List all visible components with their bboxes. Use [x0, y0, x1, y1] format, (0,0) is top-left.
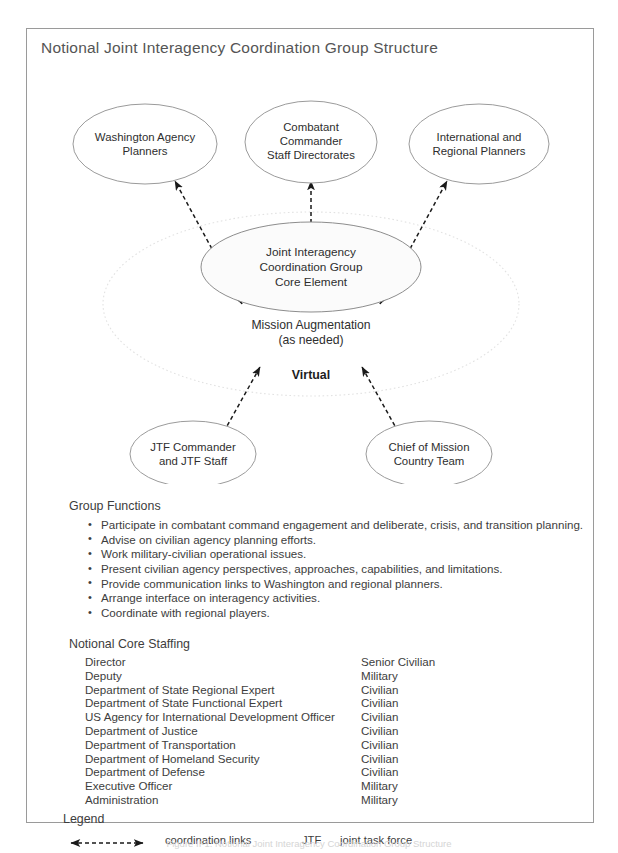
list-item: Participate in combatant command engagem…: [101, 518, 601, 531]
table-row: US Agency for International Development …: [85, 710, 435, 724]
list-item: Work military-civilian operational issue…: [101, 547, 601, 560]
staffing-role: Department of State Functional Expert: [85, 696, 361, 710]
staffing-category: Civilian: [361, 683, 435, 697]
staffing-category: Civilian: [361, 710, 435, 724]
table-row: Executive Officer Military: [85, 779, 435, 793]
table-row: Department of State Functional Expert Ci…: [85, 696, 435, 710]
table-row: Deputy Military: [85, 669, 435, 683]
staffing-role: Executive Officer: [85, 779, 361, 793]
list-item: Provide communication links to Washingto…: [101, 577, 601, 590]
figure-title: Notional Joint Interagency Coordination …: [41, 39, 438, 57]
node-chief-line-1: Chief of Mission: [388, 441, 469, 453]
node-washington-line-2: Planners: [123, 145, 168, 157]
table-row: Department of State Regional Expert Civi…: [85, 683, 435, 697]
node-chief-of-mission-country-team[interactable]: Chief of Mission Country Team: [366, 421, 492, 484]
node-international-regional-planners[interactable]: International and Regional Planners: [409, 104, 549, 184]
table-row: Department of Homeland Security Civilian: [85, 752, 435, 766]
table-row: Director Senior Civilian: [85, 655, 435, 669]
node-core-line-1: Joint Interagency: [266, 245, 356, 259]
diagram-canvas: Washington Agency Planners Combatant Com…: [27, 59, 595, 484]
mission-augmentation-label: Mission Augmentation (as needed): [251, 318, 370, 347]
core-staffing-heading: Notional Core Staffing: [69, 637, 190, 651]
figure-frame: Notional Joint Interagency Coordination …: [26, 28, 594, 823]
core-staffing-table: Director Senior Civilian Deputy Military…: [85, 655, 435, 807]
node-washington-line-1: Washington Agency: [95, 131, 196, 143]
node-combatant-commander-staff-directorates[interactable]: Combatant Commander Staff Directorates: [245, 101, 377, 183]
staffing-role: Department of Transportation: [85, 738, 361, 752]
list-item: Advise on civilian agency planning effor…: [101, 533, 601, 546]
mission-augmentation-line-2: (as needed): [278, 333, 343, 347]
staffing-category: Senior Civilian: [361, 655, 435, 669]
list-item: Coordinate with regional players.: [101, 606, 601, 619]
list-item: Arrange interface on interagency activit…: [101, 591, 601, 604]
staffing-category: Civilian: [361, 765, 435, 779]
group-functions-list: Participate in combatant command engagem…: [75, 518, 601, 621]
legend-heading: Legend: [63, 812, 104, 826]
staffing-role: Deputy: [85, 669, 361, 683]
staffing-category: Military: [361, 779, 435, 793]
node-combatant-line-3: Staff Directorates: [267, 149, 355, 161]
figure-caption: Figure II-1. Notional Joint Interagency …: [0, 838, 618, 849]
staffing-category: Civilian: [361, 724, 435, 738]
staffing-role: Director: [85, 655, 361, 669]
node-jtf-line-1: JTF Commander: [150, 441, 236, 453]
node-core-line-3: Core Element: [275, 275, 348, 289]
table-row: Department of Transportation Civilian: [85, 738, 435, 752]
virtual-label: Virtual: [292, 368, 330, 382]
table-row: Department of Justice Civilian: [85, 724, 435, 738]
org-diagram: Washington Agency Planners Combatant Com…: [27, 59, 595, 484]
staffing-category: Military: [361, 669, 435, 683]
node-international-line-2: Regional Planners: [432, 145, 525, 157]
staffing-category: Civilian: [361, 738, 435, 752]
staffing-role: Department of Justice: [85, 724, 361, 738]
table-row: Administration Military: [85, 793, 435, 807]
staffing-role: Department of Homeland Security: [85, 752, 361, 766]
staffing-category: Military: [361, 793, 435, 807]
node-core-line-2: Coordination Group: [260, 260, 363, 274]
node-combatant-line-2: Commander: [280, 135, 343, 147]
node-jiacg-core-element[interactable]: Joint Interagency Coordination Group Cor…: [201, 222, 421, 312]
staffing-category: Civilian: [361, 752, 435, 766]
staffing-role: Department of State Regional Expert: [85, 683, 361, 697]
node-combatant-line-1: Combatant: [283, 121, 340, 133]
group-functions-heading: Group Functions: [69, 499, 161, 513]
staffing-role: US Agency for International Development …: [85, 710, 361, 724]
node-international-line-1: International and: [437, 131, 522, 143]
node-jtf-line-2: and JTF Staff: [159, 455, 228, 467]
node-jtf-commander-and-staff[interactable]: JTF Commander and JTF Staff: [130, 421, 256, 484]
table-row: Department of Defense Civilian: [85, 765, 435, 779]
mission-augmentation-line-1: Mission Augmentation: [251, 318, 370, 332]
staffing-role: Department of Defense: [85, 765, 361, 779]
list-item: Present civilian agency perspectives, ap…: [101, 562, 601, 575]
staffing-category: Civilian: [361, 696, 435, 710]
node-washington-agency-planners[interactable]: Washington Agency Planners: [73, 104, 217, 184]
staffing-role: Administration: [85, 793, 361, 807]
node-chief-line-2: Country Team: [394, 455, 465, 467]
